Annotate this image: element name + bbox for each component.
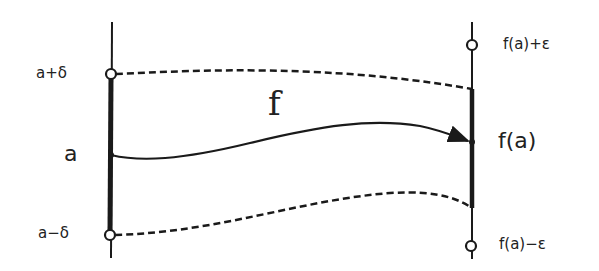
label-fa-minus-epsilon: f(a)−ε [499, 237, 546, 252]
label-a-plus-delta: a+δ [36, 66, 67, 81]
function-label-f: f [268, 86, 281, 120]
fa-plus-epsilon-marker [467, 40, 477, 50]
fa-point [469, 139, 475, 145]
function-arrow [111, 123, 468, 159]
a-plus-delta-marker [106, 69, 116, 79]
label-fa: f(a) [498, 130, 536, 152]
upper-bound-dashed-curve [116, 70, 472, 89]
a-minus-delta-marker [105, 230, 115, 240]
label-a: a [64, 143, 77, 165]
label-fa-plus-epsilon: f(a)+ε [503, 37, 550, 52]
fa-minus-epsilon-marker [466, 241, 476, 251]
left-axis [105, 22, 116, 258]
lower-bound-dashed-curve [115, 192, 472, 235]
label-a-minus-delta: a−δ [38, 226, 69, 241]
